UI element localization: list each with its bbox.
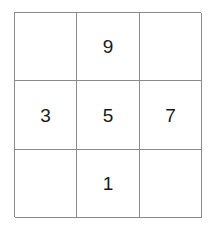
grid-cell-value: 3 xyxy=(40,106,51,125)
number-grid: 9 3 5 7 1 xyxy=(14,12,201,217)
grid-cell-r2c1[interactable]: 1 xyxy=(77,150,140,218)
grid-cell-value: 9 xyxy=(103,37,114,56)
grid-cell-r1c0[interactable]: 3 xyxy=(15,81,77,150)
grid-cell-value: 5 xyxy=(103,106,114,125)
grid-cell-r0c2[interactable] xyxy=(140,13,202,81)
grid-cell-r2c0[interactable] xyxy=(15,150,77,218)
grid-cell-r2c2[interactable] xyxy=(140,150,202,218)
grid-cell-r0c0[interactable] xyxy=(15,13,77,81)
grid-cell-r1c1[interactable]: 5 xyxy=(77,81,140,150)
grid-cell-value: 7 xyxy=(165,106,176,125)
grid-cell-r1c2[interactable]: 7 xyxy=(140,81,202,150)
grid-cell-value: 1 xyxy=(103,174,114,193)
grid-cell-r0c1[interactable]: 9 xyxy=(77,13,140,81)
